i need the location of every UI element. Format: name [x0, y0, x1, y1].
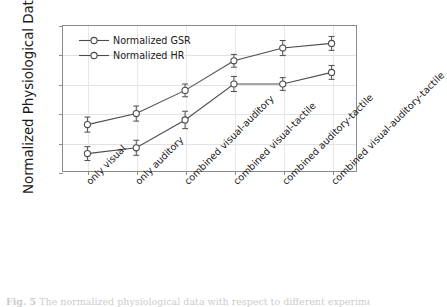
- legend-item-hr: Normalized HR: [79, 49, 191, 62]
- legend-marker-hr: [79, 50, 109, 61]
- legend-label-gsr: Normalized GSR: [113, 35, 191, 46]
- figure-caption: Fig. 5 The normalized physiological data…: [6, 296, 370, 307]
- y-axis-title: Normalized Physiological Data: [20, 14, 36, 194]
- legend-label-hr: Normalized HR: [113, 50, 184, 61]
- data-point-marker: [84, 122, 90, 128]
- data-point-marker: [133, 145, 139, 151]
- data-point-marker: [182, 117, 188, 123]
- legend-marker-gsr: [79, 35, 109, 46]
- data-point-marker: [329, 40, 335, 46]
- data-point-marker: [231, 58, 237, 64]
- data-point-marker: [84, 151, 90, 157]
- series-line: [87, 72, 331, 153]
- data-point-marker: [329, 69, 335, 75]
- caption-label: Fig. 5: [6, 296, 36, 307]
- data-point-marker: [182, 87, 188, 93]
- legend: Normalized GSR Normalized HR: [75, 32, 195, 64]
- legend-item-gsr: Normalized GSR: [79, 34, 191, 47]
- data-point-marker: [133, 111, 139, 117]
- data-point-marker: [280, 45, 286, 51]
- data-point-marker: [231, 81, 237, 87]
- data-point-marker: [280, 81, 286, 87]
- y-tick-mark: [59, 173, 63, 174]
- caption-text: The normalized physiological data with r…: [39, 296, 370, 307]
